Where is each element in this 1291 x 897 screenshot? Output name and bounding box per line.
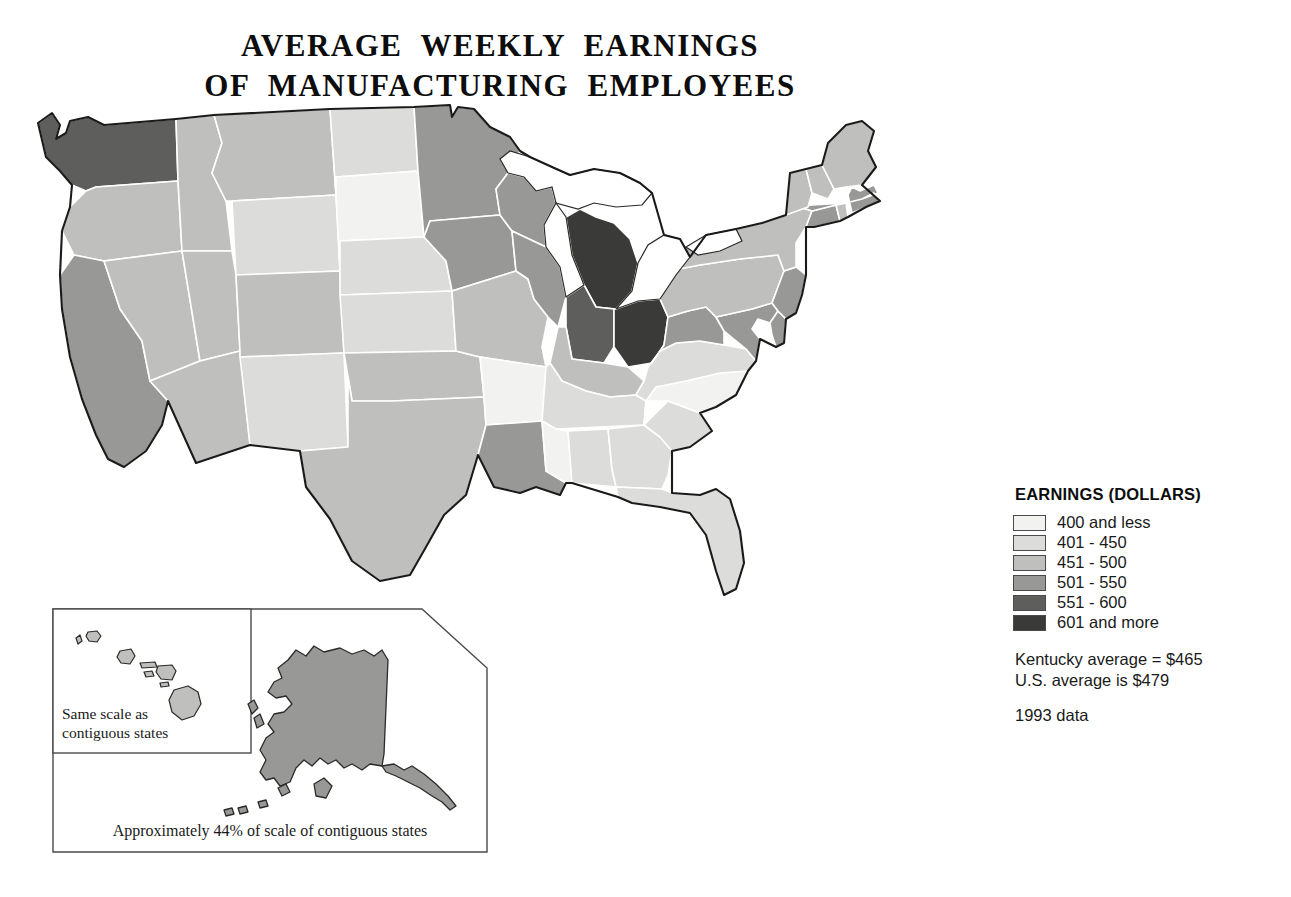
state-CO	[236, 271, 344, 357]
inset-panel: Same scale as contiguous states Approxim…	[52, 608, 488, 853]
legend-label-3: 501 - 550	[1057, 573, 1127, 592]
legend-swatch-2	[1013, 555, 1046, 571]
legend-label-5: 601 and more	[1057, 613, 1159, 632]
legend-notes: Kentucky average = $465 U.S. average is …	[1015, 649, 1291, 728]
alaska-chain-4	[224, 808, 234, 816]
title-line-1: AVERAGE WEEKLY EARNINGS	[0, 26, 1000, 66]
page-title: AVERAGE WEEKLY EARNINGS OF MANUFACTURING…	[0, 26, 1000, 105]
legend-swatch-1	[1013, 535, 1046, 551]
legend-item-5: 601 and more	[1013, 613, 1291, 633]
note-us-average: U.S. average is $479	[1015, 670, 1291, 692]
legend-heading: EARNINGS (DOLLARS)	[1015, 485, 1291, 504]
legend-item-1: 401 - 450	[1013, 533, 1291, 553]
legend-swatch-5	[1013, 615, 1046, 631]
alaska-chain-3	[238, 806, 248, 814]
state-OR	[62, 181, 182, 261]
map-legend: EARNINGS (DOLLARS) 400 and less 401 - 45…	[1013, 485, 1291, 727]
legend-swatch-3	[1013, 575, 1046, 591]
island-lanai	[144, 671, 154, 677]
legend-item-3: 501 - 550	[1013, 573, 1291, 593]
legend-swatch-0	[1013, 515, 1046, 531]
island-kahoolawe	[160, 682, 169, 687]
island-kauai	[86, 631, 101, 642]
state-OK	[344, 351, 484, 401]
hawaii-scale-note-line2: contiguous states	[62, 724, 168, 741]
alaska-scale-caption: Approximately 44% of scale of contiguous…	[113, 822, 428, 840]
legend-label-2: 451 - 500	[1057, 553, 1127, 572]
state-MT	[212, 109, 336, 201]
hawaii-scale-note-line1: Same scale as	[62, 705, 148, 722]
note-data-year: 1993 data	[1015, 705, 1291, 727]
note-kentucky-average: Kentucky average = $465	[1015, 649, 1291, 671]
island-molokai	[140, 662, 157, 668]
legend-label-1: 401 - 450	[1057, 533, 1127, 552]
legend-label-0: 400 and less	[1057, 513, 1151, 532]
state-WY	[232, 195, 340, 275]
inset-map-alaska-hawaii: Same scale as contiguous states Approxim…	[52, 608, 488, 853]
legend-item-0: 400 and less	[1013, 513, 1291, 533]
legend-item-2: 451 - 500	[1013, 553, 1291, 573]
state-AR	[480, 357, 546, 425]
state-NM	[240, 353, 348, 451]
legend-label-4: 551 - 600	[1057, 593, 1127, 612]
alaska-chain-2	[258, 800, 268, 808]
legend-item-4: 551 - 600	[1013, 593, 1291, 613]
state-KS	[340, 291, 456, 353]
legend-swatch-4	[1013, 595, 1046, 611]
